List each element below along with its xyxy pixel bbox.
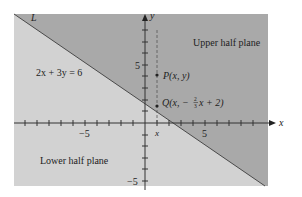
x-axis-label: x xyxy=(278,117,284,128)
x-marker-label: x xyxy=(154,128,159,138)
upper-half-plane-label: Upper half plane xyxy=(193,37,261,48)
tick-label-y-neg5: −5 xyxy=(127,176,138,187)
point-p-dot xyxy=(155,73,158,76)
y-axis-label: y xyxy=(149,10,155,21)
tick-label-x-5: 5 xyxy=(202,128,207,139)
point-q-dot xyxy=(155,104,158,107)
point-q-label: Q(x, − 2 3 x + 2) xyxy=(162,96,224,109)
svg-text:3: 3 xyxy=(194,103,197,109)
svg-text:x + 2): x + 2) xyxy=(198,97,224,109)
half-plane-diagram: L 2x + 3y = 6 Upper half plane Lower hal… xyxy=(0,0,302,197)
equation-label: 2x + 3y = 6 xyxy=(36,67,82,78)
tick-label-x-neg5: −5 xyxy=(79,128,90,139)
x-axis-arrow-icon xyxy=(269,120,276,126)
svg-text:Q(x, −: Q(x, − xyxy=(162,97,189,109)
svg-text:2: 2 xyxy=(194,96,197,102)
tick-label-y-5: 5 xyxy=(135,60,140,71)
lower-half-plane-label: Lower half plane xyxy=(40,155,109,166)
line-label: L xyxy=(30,12,37,23)
point-p-label: P(x, y) xyxy=(162,70,190,82)
